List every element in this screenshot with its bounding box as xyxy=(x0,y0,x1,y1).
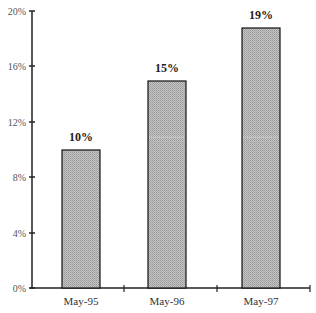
bar-chart: 0% 4% 8% 12% 16% 20% 10% 15% 19% May-95 … xyxy=(0,0,316,313)
y-tick-label: 20% xyxy=(0,6,26,17)
bar-may-96 xyxy=(148,81,186,288)
x-tick-label: May-95 xyxy=(51,295,111,307)
y-tick-label: 8% xyxy=(0,172,26,183)
bar-may-97 xyxy=(242,28,280,288)
x-tick-label: May-97 xyxy=(231,295,291,307)
bar-value-label: 10% xyxy=(56,130,106,145)
bar-may-95 xyxy=(62,150,100,288)
y-tick-label: 0% xyxy=(0,283,26,294)
y-tick-label: 12% xyxy=(0,117,26,128)
chart-plot-area xyxy=(0,0,316,313)
y-tick-label: 16% xyxy=(0,61,26,72)
x-tick-label: May-96 xyxy=(137,295,197,307)
bar-value-label: 15% xyxy=(142,61,192,76)
bar-value-label: 19% xyxy=(236,8,286,23)
y-tick-label: 4% xyxy=(0,228,26,239)
